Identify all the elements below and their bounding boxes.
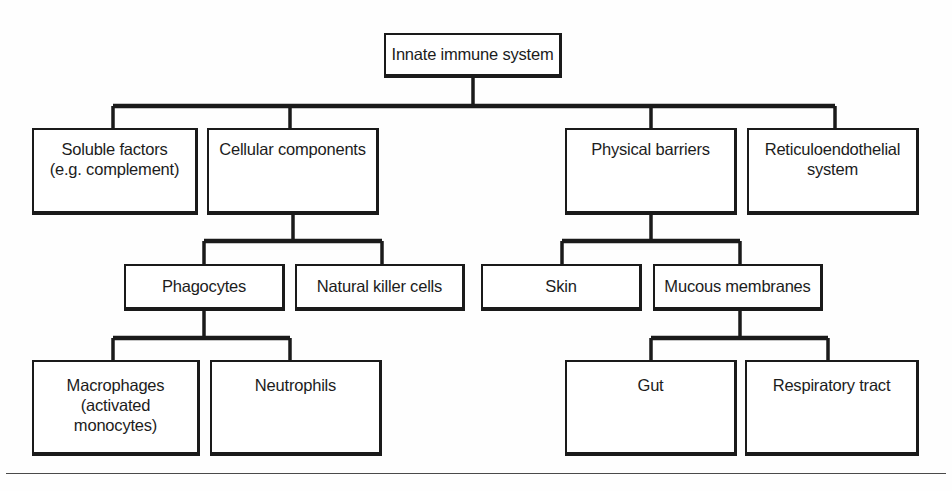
node-innate-immune-system: Innate immune system: [384, 33, 562, 78]
diagram-canvas: Innate immune system Soluble factors (e.…: [0, 0, 952, 491]
node-label: Macrophages (activated monocytes): [38, 375, 193, 435]
node-label: Soluble factors (e.g. complement): [50, 139, 180, 179]
node-skin: Skin: [481, 264, 642, 311]
bottom-divider: [6, 473, 946, 474]
node-label: Skin: [545, 276, 576, 296]
node-respiratory-tract: Respiratory tract: [745, 360, 919, 456]
node-natural-killer-cells: Natural killer cells: [295, 264, 465, 311]
node-phagocytes: Phagocytes: [124, 264, 285, 311]
node-soluble-factors: Soluble factors (e.g. complement): [32, 128, 198, 215]
node-physical-barriers: Physical barriers: [565, 128, 737, 215]
node-label: Respiratory tract: [773, 375, 891, 395]
node-label: Innate immune system: [392, 44, 554, 64]
node-label: Reticuloendothelial system: [765, 139, 901, 179]
node-label: Cellular components: [219, 139, 366, 159]
node-label: Gut: [638, 375, 664, 395]
node-label: Mucous membranes: [664, 276, 810, 296]
node-mucous-membranes: Mucous membranes: [653, 264, 823, 311]
node-label: Neutrophils: [255, 375, 336, 395]
node-neutrophils: Neutrophils: [210, 360, 382, 456]
node-cellular-components: Cellular components: [207, 128, 379, 215]
node-gut: Gut: [565, 360, 737, 456]
node-reticuloendothelial-system: Reticuloendothelial system: [747, 128, 919, 215]
node-label: Natural killer cells: [317, 276, 442, 296]
node-label: Phagocytes: [162, 276, 246, 296]
node-macrophages: Macrophages (activated monocytes): [32, 360, 200, 456]
node-label: Physical barriers: [591, 139, 710, 159]
